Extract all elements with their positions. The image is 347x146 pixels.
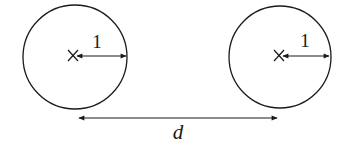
right-circle: 1 — [229, 6, 331, 108]
distance-label: d — [173, 120, 184, 144]
two-circles-diagram: 1 1 d — [0, 0, 347, 146]
right-center-cross-icon — [274, 50, 284, 61]
left-center-cross-icon — [68, 50, 78, 61]
left-radius-label: 1 — [92, 31, 102, 52]
right-radius-label: 1 — [300, 30, 310, 51]
left-circle: 1 — [23, 5, 127, 109]
